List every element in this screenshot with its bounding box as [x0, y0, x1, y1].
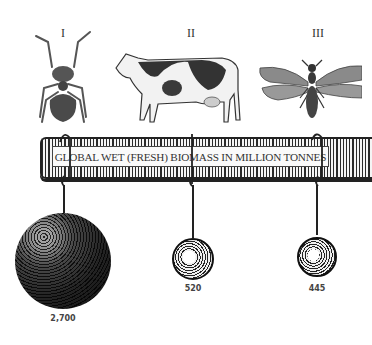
beam-hooks	[0, 128, 362, 188]
sphere-termite	[297, 237, 337, 277]
value-label-termite: 445	[309, 284, 326, 293]
value-label-cow: 520	[185, 284, 202, 293]
cow-icon	[112, 50, 248, 128]
string-iii	[316, 185, 318, 235]
numeral-iii: III	[312, 26, 324, 41]
numeral-ii: II	[187, 26, 195, 41]
string-ii	[192, 185, 194, 238]
ant-icon	[30, 22, 96, 128]
sphere-ant	[15, 213, 111, 309]
value-label-ant: 2,700	[50, 314, 75, 323]
sphere-cow	[172, 238, 214, 280]
string-i	[63, 185, 65, 215]
termite-icon	[256, 58, 362, 124]
